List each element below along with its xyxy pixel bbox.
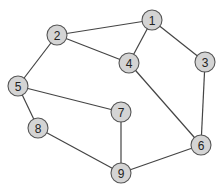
node-2: 2 [47, 25, 67, 45]
edge-9-6 [121, 145, 201, 173]
edge-2-4 [57, 35, 129, 63]
edge-4-6 [129, 63, 201, 145]
node-6: 6 [191, 135, 211, 155]
node-1: 1 [142, 10, 162, 30]
node-5: 5 [8, 76, 28, 96]
node-label: 8 [35, 122, 42, 136]
edges [18, 20, 205, 173]
nodes: 123456789 [8, 10, 215, 183]
node-4: 4 [119, 53, 139, 73]
node-9: 9 [111, 163, 131, 183]
node-label: 6 [198, 139, 205, 153]
node-label: 3 [202, 56, 209, 70]
node-8: 8 [28, 118, 48, 138]
edge-1-2 [57, 20, 152, 35]
edge-5-7 [18, 86, 121, 112]
node-label: 7 [118, 106, 125, 120]
node-label: 5 [15, 80, 22, 94]
node-label: 2 [54, 29, 61, 43]
node-label: 1 [149, 14, 156, 28]
node-3: 3 [195, 52, 215, 72]
node-label: 4 [126, 57, 133, 71]
node-7: 7 [111, 102, 131, 122]
edge-8-9 [38, 128, 121, 173]
edge-3-6 [201, 62, 205, 145]
node-label: 9 [118, 167, 125, 181]
network-graph: 123456789 [0, 0, 222, 192]
